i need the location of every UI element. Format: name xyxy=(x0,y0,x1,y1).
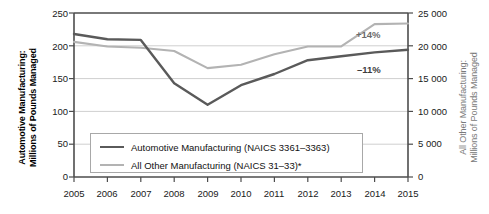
legend-item-automotive: Automotive Manufacturing (NAICS 3361–336… xyxy=(100,140,330,154)
legend-swatch-automotive-icon xyxy=(100,146,124,148)
gridlines xyxy=(74,46,408,144)
annotation-automotive-change: –11% xyxy=(357,64,381,75)
legend-item-all-other: All Other Manufacturing (NAICS 31–33)* xyxy=(100,158,302,172)
plot-area xyxy=(0,0,489,214)
chart-container: Automotive Manufacturing: Millions of Po… xyxy=(0,0,489,214)
legend-label-automotive: Automotive Manufacturing (NAICS 3361–336… xyxy=(131,142,330,153)
chart-legend: Automotive Manufacturing (NAICS 3361–336… xyxy=(90,133,363,173)
legend-swatch-all-other-icon xyxy=(100,164,124,166)
annotation-all-other-change: +14% xyxy=(356,29,381,40)
legend-label-all-other: All Other Manufacturing (NAICS 31–33)* xyxy=(131,160,302,171)
